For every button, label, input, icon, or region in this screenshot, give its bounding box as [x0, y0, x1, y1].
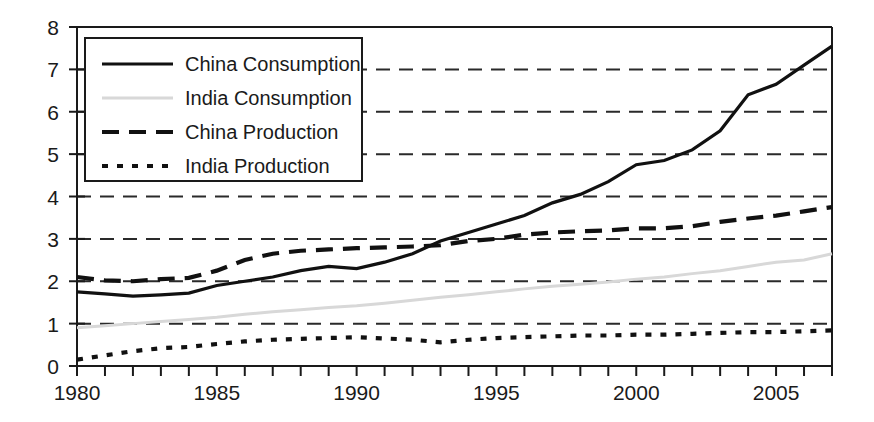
y-tick-label-5: 5 [47, 143, 59, 166]
x-tick-label-2005: 2005 [753, 381, 800, 404]
legend-label-india-production: India Production [185, 155, 330, 177]
y-tick-label-4: 4 [47, 186, 59, 209]
y-tick-label-8: 8 [47, 16, 59, 39]
y-tick-label-0: 0 [47, 355, 59, 378]
chart-legend[interactable]: China ConsumptionIndia ConsumptionChina … [85, 38, 362, 181]
x-axis-ticks [77, 366, 832, 376]
x-tick-label-1980: 1980 [54, 381, 101, 404]
y-tick-label-7: 7 [47, 58, 59, 81]
x-tick-label-1990: 1990 [333, 381, 380, 404]
x-axis-tick-labels: 198019851990199520002005 [54, 381, 800, 404]
legend-label-china-production: China Production [185, 121, 338, 143]
chart-canvas: 012345678 198019851990199520002005 China… [0, 0, 874, 422]
legend-label-india-consumption: India Consumption [185, 87, 352, 109]
legend-label-china-consumption: China Consumption [185, 53, 361, 75]
y-tick-label-1: 1 [47, 313, 59, 336]
x-tick-label-2000: 2000 [613, 381, 660, 404]
y-tick-label-2: 2 [47, 270, 59, 293]
y-tick-label-3: 3 [47, 228, 59, 251]
series-line-india-consumption [77, 254, 832, 328]
series-line-india-production [77, 330, 832, 359]
y-axis-tick-labels: 012345678 [47, 16, 59, 378]
y-tick-label-6: 6 [47, 101, 59, 124]
x-tick-label-1985: 1985 [193, 381, 240, 404]
x-tick-label-1995: 1995 [473, 381, 520, 404]
line-chart: 012345678 198019851990199520002005 China… [0, 0, 874, 422]
